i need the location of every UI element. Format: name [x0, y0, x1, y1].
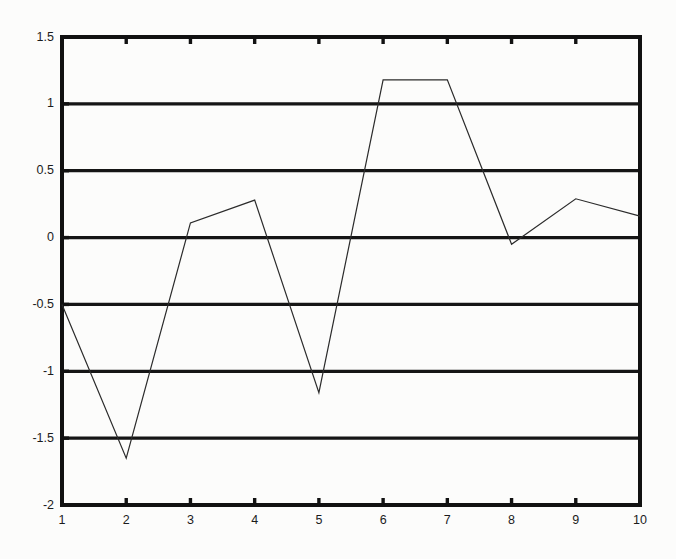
- y-tick-label: -1: [43, 365, 54, 378]
- x-tick-label: 2: [106, 514, 146, 527]
- y-tick-label: -2: [43, 499, 54, 512]
- data-line-group: [62, 80, 640, 458]
- y-tick-label: 0.5: [37, 164, 54, 177]
- axis-frame: [62, 37, 640, 505]
- y-tick-label: 1.5: [37, 31, 54, 44]
- plot-canvas: [0, 0, 676, 559]
- x-tick-label: 8: [492, 514, 532, 527]
- x-tick-label: 6: [363, 514, 403, 527]
- chart-figure: 1.510.50-0.5-1-1.5-2 12345678910: [0, 0, 676, 559]
- axis-frame-group: [62, 37, 640, 505]
- axis-ticks-group: [62, 37, 576, 505]
- data-series-line: [62, 80, 640, 458]
- x-tick-label: 9: [556, 514, 596, 527]
- y-tick-label: 0: [47, 231, 54, 244]
- x-tick-label: 7: [427, 514, 467, 527]
- y-tick-label: 1: [47, 97, 54, 110]
- x-tick-label: 1: [42, 514, 82, 527]
- gridlines-group: [62, 104, 640, 438]
- x-tick-label: 4: [235, 514, 275, 527]
- x-tick-label: 10: [620, 514, 660, 527]
- y-tick-label: -0.5: [32, 298, 54, 311]
- y-tick-label: -1.5: [32, 432, 54, 445]
- x-tick-label: 5: [299, 514, 339, 527]
- x-tick-label: 3: [170, 514, 210, 527]
